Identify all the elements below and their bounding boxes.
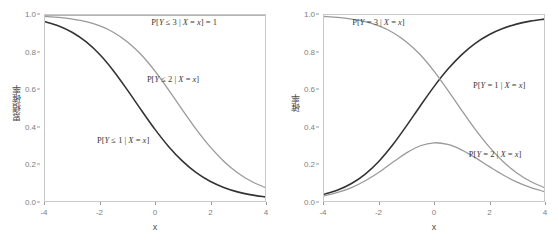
x-tick-mark bbox=[490, 202, 491, 205]
x-tick-label: 2 bbox=[208, 208, 212, 217]
y-tick-label: 1.0 bbox=[304, 10, 315, 19]
x-tick-mark bbox=[323, 202, 324, 205]
curve-annotation: P[Y ≤ 2 | X = x] bbox=[147, 75, 199, 84]
y-tick-label: 0.6 bbox=[304, 85, 315, 94]
x-axis-ticks-left: -4-2024 bbox=[44, 202, 266, 220]
y-tick-mark bbox=[316, 164, 319, 165]
x-axis-ticks-right: -4-2024 bbox=[323, 202, 545, 220]
x-tick-label: -2 bbox=[96, 208, 103, 217]
x-tick-mark bbox=[545, 202, 546, 205]
y-tick-label: 0.4 bbox=[25, 122, 36, 131]
y-tick-label: 0.6 bbox=[25, 85, 36, 94]
curves-left bbox=[45, 15, 265, 201]
y-tick-mark bbox=[37, 89, 40, 90]
curve-annotation: P[Y ≤ 3 | X = x] = 1 bbox=[151, 18, 217, 27]
y-tick-mark bbox=[316, 51, 319, 52]
x-tick-label: 4 bbox=[543, 208, 547, 217]
curve-line bbox=[45, 22, 265, 197]
y-tick-label: 0.0 bbox=[25, 198, 36, 207]
x-tick-label: -2 bbox=[375, 208, 382, 217]
cumulative-probability-panel: 累積確率 0.00.20.40.60.81.0 -4-2024 x P[Y ≤ … bbox=[0, 0, 279, 249]
x-tick-label: 0 bbox=[432, 208, 436, 217]
probability-panel: 確率 0.00.20.40.60.81.0 -4-2024 x P[Y = 3 … bbox=[279, 0, 558, 249]
y-tick-mark bbox=[37, 164, 40, 165]
plot-area-left bbox=[44, 14, 266, 202]
y-tick-label: 0.2 bbox=[304, 160, 315, 169]
x-tick-mark bbox=[434, 202, 435, 205]
y-tick-label: 0.0 bbox=[304, 198, 315, 207]
plot-area-right bbox=[323, 14, 545, 202]
curve-line bbox=[45, 16, 265, 187]
x-tick-label: -4 bbox=[319, 208, 326, 217]
y-tick-label: 1.0 bbox=[25, 10, 36, 19]
x-axis-title-right: x bbox=[323, 222, 545, 232]
y-tick-mark bbox=[37, 51, 40, 52]
y-tick-label: 0.8 bbox=[304, 47, 315, 56]
y-tick-mark bbox=[37, 14, 40, 15]
curve-annotation: P[Y ≤ 1 | X = x] bbox=[97, 136, 149, 145]
y-tick-label: 0.2 bbox=[25, 160, 36, 169]
curve-line bbox=[324, 16, 544, 187]
curve-annotation: P[Y = 3 | X = x] bbox=[352, 18, 404, 27]
x-tick-label: 0 bbox=[153, 208, 157, 217]
x-tick-mark bbox=[266, 202, 267, 205]
y-axis-ticks-left: 0.00.20.40.60.81.0 bbox=[22, 14, 40, 202]
y-axis-ticks-right: 0.00.20.40.60.81.0 bbox=[301, 14, 319, 202]
x-axis-title-left: x bbox=[44, 222, 266, 232]
y-tick-label: 0.4 bbox=[304, 122, 315, 131]
x-tick-mark bbox=[100, 202, 101, 205]
y-tick-mark bbox=[316, 126, 319, 127]
curve-annotation: P[Y = 1 | X = x] bbox=[473, 80, 525, 89]
y-tick-label: 0.8 bbox=[25, 47, 36, 56]
ordinal-logistic-probability-figure: 累積確率 0.00.20.40.60.81.0 -4-2024 x P[Y ≤ … bbox=[0, 0, 558, 249]
x-tick-label: 4 bbox=[264, 208, 268, 217]
x-tick-mark bbox=[379, 202, 380, 205]
y-tick-mark bbox=[316, 14, 319, 15]
x-tick-mark bbox=[211, 202, 212, 205]
curves-right bbox=[324, 15, 544, 201]
x-tick-mark bbox=[44, 202, 45, 205]
y-tick-mark bbox=[37, 126, 40, 127]
curve-annotation: P[Y = 2 | X = x] bbox=[469, 150, 521, 159]
y-tick-mark bbox=[37, 202, 40, 203]
y-tick-mark bbox=[316, 89, 319, 90]
x-tick-label: -4 bbox=[40, 208, 47, 217]
y-tick-mark bbox=[316, 202, 319, 203]
x-tick-label: 2 bbox=[487, 208, 491, 217]
x-tick-mark bbox=[155, 202, 156, 205]
